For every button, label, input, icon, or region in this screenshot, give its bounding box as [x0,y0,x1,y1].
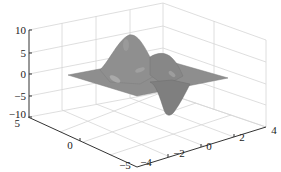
z-tick-10: 10 [15,24,27,36]
surface-plot: 10 5 0 −5 −10 5 0 −5 −4 −2 0 2 4 [0,0,281,172]
y-tick-0: 0 [67,139,73,151]
y-tick-labels: 5 0 −5 [15,117,132,171]
x-tick-4: 4 [271,124,277,136]
z-tick-0: 0 [21,68,27,80]
x-tick-neg2: −2 [173,147,185,159]
x-tick-labels: −4 −2 0 2 4 [140,124,277,168]
z-tick-neg5: −5 [14,90,26,102]
x-tick-neg4: −4 [140,156,152,168]
z-tick-5: 5 [21,47,27,59]
surface [68,35,228,115]
x-tick-2: 2 [239,131,245,143]
y-tick-5: 5 [15,117,21,129]
z-tick-labels: 10 5 0 −5 −10 [9,24,27,120]
y-tick-neg5: −5 [119,159,131,171]
x-tick-0: 0 [206,140,212,152]
